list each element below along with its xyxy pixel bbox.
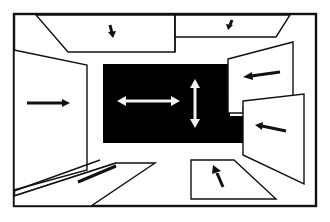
- right-wall-lower-panel: [243, 94, 304, 184]
- floor-panel-right: [191, 160, 276, 199]
- ceiling-panel-right: [175, 15, 290, 37]
- ceiling-panel-left: [36, 15, 175, 52]
- room-drawing: [0, 0, 330, 222]
- optic-flow-room-diagram: [0, 0, 330, 222]
